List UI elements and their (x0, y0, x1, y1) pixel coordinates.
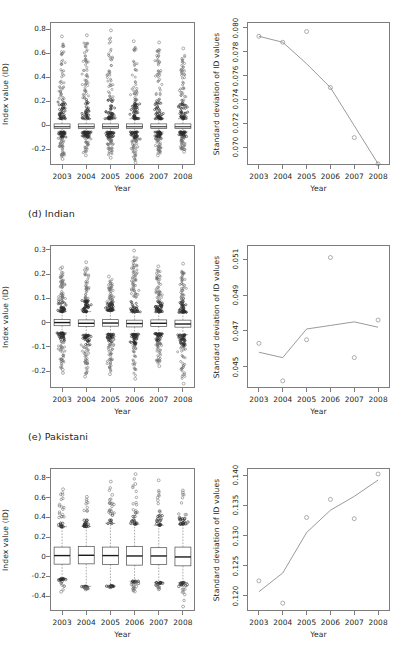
boxplot-d-ytick-label: 0 (16, 318, 46, 327)
boxplot-d-ytick-label: -0.1 (16, 342, 46, 351)
boxplot-c-ytick-label: 0 (16, 120, 46, 129)
sdplot-d-ytick-label: 0.045 (231, 356, 240, 377)
sdplot-e-ytick-label: 0.120 (231, 585, 240, 606)
boxplot-c-ytick-label: 0.8 (16, 24, 46, 33)
boxplot-d-yaxis-title: Index value (ID) (1, 285, 10, 347)
boxplot-e-ytick-label: -0.2 (16, 571, 46, 580)
boxplot-e-ytick-label: 0 (16, 552, 46, 561)
boxplot-d-ytick-label: 0.2 (16, 269, 46, 278)
boxplot-d-ytick-label: -0.2 (16, 366, 46, 375)
sdplot-c-ytick-label: 0.078 (231, 41, 240, 62)
boxplot-e-ytick-label: 0.2 (16, 532, 46, 541)
boxplot-c-yaxis-title: Index value (ID) (1, 62, 10, 124)
boxplot-c-ytick-label: 0.2 (16, 96, 46, 105)
sdplot-c-ytick-label: 0.080 (231, 17, 240, 38)
sdplot-d-ytick-label: 0.047 (231, 320, 240, 341)
boxplot-c-ytick-label: 0.6 (16, 48, 46, 57)
sdplot-d-ytick-label: 0.049 (231, 285, 240, 306)
sdplot-d-canvas (247, 245, 405, 428)
panel-caption-e: (e) Pakistani (28, 431, 88, 442)
panel-caption-d: (d) Indian (28, 208, 75, 219)
boxplot-c-canvas (50, 22, 235, 205)
sdplot-c-ytick-label: 0.074 (231, 89, 240, 110)
boxplot-c-ytick-label: -0.2 (16, 144, 46, 153)
sdplot-e-ytick-label: 0.125 (231, 555, 240, 576)
boxplot-e-ytick-label: 0.4 (16, 512, 46, 521)
boxplot-e-ytick-label: -0.4 (16, 591, 46, 600)
boxplot-d-ytick-label: 0.1 (16, 293, 46, 302)
sdplot-e-ytick-label: 0.130 (231, 525, 240, 546)
sdplot-e-ytick-label: 0.140 (231, 465, 240, 486)
boxplot-e-canvas (50, 468, 235, 647)
sdplot-d-yaxis-title: Standard deviation of ID values (212, 255, 221, 378)
boxplot-e-ytick-label: 0.6 (16, 493, 46, 502)
sdplot-e-ytick-label: 0.135 (231, 495, 240, 516)
boxplot-d-canvas (50, 245, 235, 428)
boxplot-e-ytick-label: 0.8 (16, 473, 46, 482)
sdplot-c-ytick-label: 0.072 (231, 113, 240, 134)
sdplot-c-canvas (247, 22, 405, 205)
sdplot-e-canvas (247, 468, 405, 647)
boxplot-d-ytick-label: 0.3 (16, 245, 46, 254)
boxplot-c-ytick-label: 0.4 (16, 72, 46, 81)
sdplot-d-ytick-label: 0.051 (231, 249, 240, 270)
sdplot-c-yaxis-title: Standard deviation of ID values (212, 32, 221, 155)
boxplot-e-yaxis-title: Index value (ID) (1, 508, 10, 570)
sdplot-c-ytick-label: 0.070 (231, 137, 240, 158)
sdplot-e-yaxis-title: Standard deviation of ID values (212, 478, 221, 601)
sdplot-c-ytick-label: 0.076 (231, 65, 240, 86)
